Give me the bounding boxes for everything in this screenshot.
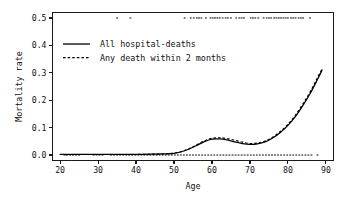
x-axis-ticks: 2030405060708090 [55,161,331,176]
y-tick-label: 0.2 [32,95,47,105]
y-tick-label: 0.1 [32,123,47,133]
x-tick-label: 50 [169,165,179,175]
chart-legend: All hospital-deathsAny death within 2 mo… [63,39,226,63]
legend-label: All hospital-deaths [100,39,196,49]
chart-canvas: 2030405060708090 0.00.10.20.30.40.5 All … [0,0,348,198]
y-tick-label: 0.3 [32,68,47,78]
x-axis-title: Age [185,181,200,191]
x-tick-label: 30 [93,165,103,175]
series-lines [60,69,322,155]
series-line-dashed [60,69,322,155]
x-tick-label: 60 [207,165,217,175]
x-tick-label: 90 [321,165,331,175]
plot-frame [53,13,334,161]
legend-label: Any death within 2 months [100,53,226,63]
y-tick-label: 0.4 [32,40,47,50]
series-line-solid [60,70,322,154]
x-tick-label: 80 [283,165,293,175]
x-tick-label: 40 [131,165,141,175]
x-tick-label: 70 [245,165,255,175]
y-tick-label: 0.5 [32,13,47,23]
y-axis-title: Mortality rate [14,51,24,122]
y-tick-label: 0.0 [32,150,47,160]
mortality-rate-chart-figure: 2030405060708090 0.00.10.20.30.40.5 All … [0,0,348,198]
y-axis-ticks: 0.00.10.20.30.40.5 [32,13,53,160]
x-tick-label: 20 [55,165,65,175]
plot-frame-border [53,13,334,161]
